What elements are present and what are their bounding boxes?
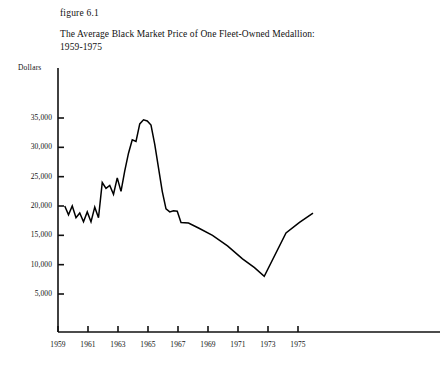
y-axis-tick-label: 25,000 (12, 172, 52, 181)
x-axis-tick-label: 1975 (281, 340, 315, 349)
y-axis-ticks (58, 118, 64, 294)
x-axis-tick-label: 1973 (251, 340, 285, 349)
figure-container: figure 6.1 The Average Black Market Pric… (0, 0, 448, 367)
line-chart-plot (0, 0, 448, 367)
x-axis-ticks (58, 326, 298, 332)
data-line-medallion-price (65, 120, 313, 277)
x-axis-tick-label: 1971 (221, 340, 255, 349)
x-axis-tick-label: 1959 (41, 340, 75, 349)
chart-series-group (65, 120, 313, 277)
y-axis-tick-label: 30,000 (12, 142, 52, 151)
x-axis-tick-label: 1969 (191, 340, 225, 349)
chart-axes (58, 68, 440, 332)
y-axis-tick-label: 35,000 (12, 113, 52, 122)
x-axis-tick-label: 1961 (71, 340, 105, 349)
x-axis-tick-label: 1965 (131, 340, 165, 349)
x-axis-tick-label: 1963 (101, 340, 135, 349)
y-axis-tick-label: 5,000 (12, 289, 52, 298)
x-axis-tick-label: 1967 (161, 340, 195, 349)
y-axis-tick-label: 20,000 (12, 201, 52, 210)
y-axis-tick-label: 15,000 (12, 230, 52, 239)
y-axis-tick-label: 10,000 (12, 260, 52, 269)
